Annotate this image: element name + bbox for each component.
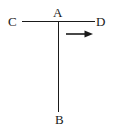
point-label-c: C bbox=[8, 15, 17, 28]
diagram-canvas: A B C D bbox=[0, 0, 118, 133]
point-label-a: A bbox=[53, 6, 62, 19]
direction-arrow-head bbox=[85, 30, 94, 37]
point-label-b: B bbox=[55, 113, 64, 126]
point-label-d: D bbox=[96, 15, 105, 28]
